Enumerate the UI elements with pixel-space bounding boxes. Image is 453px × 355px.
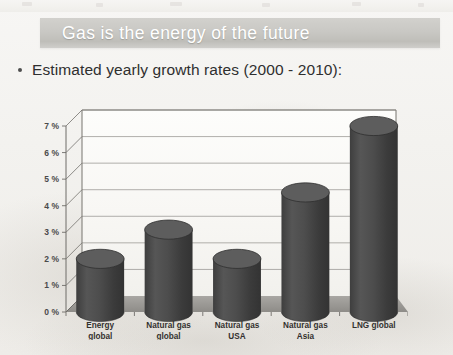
bar bbox=[281, 183, 329, 322]
bar-chart: 0 %1 %2 %3 %4 %5 %6 %7 % EnergyglobalNat… bbox=[36, 100, 408, 340]
x-axis-label: Natural gas bbox=[215, 321, 260, 330]
x-axis-label: USA bbox=[228, 332, 245, 340]
x-axis-label: LNG global bbox=[352, 321, 396, 330]
bar-top bbox=[281, 183, 329, 202]
bar bbox=[145, 220, 193, 322]
x-axis-label: Energy bbox=[86, 321, 114, 330]
y-tick-label: 5 % bbox=[44, 174, 59, 184]
bar-top bbox=[145, 220, 193, 239]
gridline-depth bbox=[66, 163, 82, 179]
bar bbox=[213, 249, 261, 321]
chart-canvas: 0 %1 %2 %3 %4 %5 %6 %7 % EnergyglobalNat… bbox=[36, 100, 408, 340]
bullet-point-icon bbox=[18, 68, 22, 72]
x-axis-label: global bbox=[88, 332, 112, 340]
bullet-text: Estimated yearly growth rates (2000 - 20… bbox=[32, 61, 342, 79]
gridline-depth bbox=[66, 216, 82, 232]
x-axis-label: Asia bbox=[297, 332, 315, 340]
bullet-line: Estimated yearly growth rates (2000 - 20… bbox=[12, 58, 432, 82]
y-tick-label: 7 % bbox=[44, 121, 59, 131]
y-tick-label: 6 % bbox=[44, 148, 59, 158]
page-title: Gas is the energy of the future bbox=[62, 23, 310, 44]
slide-title-banner: Gas is the energy of the future bbox=[40, 18, 440, 48]
bar bbox=[76, 249, 124, 321]
x-axis-label: Natural gas bbox=[146, 321, 191, 330]
x-axis-label: global bbox=[157, 332, 181, 340]
bar-top bbox=[350, 116, 398, 135]
bar bbox=[350, 116, 398, 321]
gridline-depth bbox=[66, 110, 82, 126]
x-axis-label: Natural gas bbox=[283, 321, 328, 330]
y-axis-tick-labels: 0 %1 %2 %3 %4 %5 %6 %7 % bbox=[44, 121, 59, 317]
y-tick-label: 3 % bbox=[44, 227, 59, 237]
gridline-depth bbox=[66, 190, 82, 206]
y-tick-label: 2 % bbox=[44, 254, 59, 264]
y-tick-label: 4 % bbox=[44, 201, 59, 211]
page-top-artifact-strip bbox=[0, 0, 453, 12]
bar-top bbox=[76, 249, 124, 268]
x-axis-labels: EnergyglobalNatural gasglobalNatural gas… bbox=[86, 321, 395, 340]
y-tick-label: 1 % bbox=[44, 280, 59, 290]
bar-top bbox=[213, 249, 261, 268]
gridline-depth bbox=[66, 137, 82, 153]
y-tick-label: 0 % bbox=[44, 307, 59, 317]
